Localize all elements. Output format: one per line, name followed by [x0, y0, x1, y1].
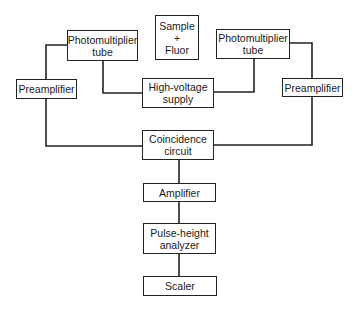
photomultiplier-tube-right-box: Photomultiplier tube [216, 29, 290, 59]
edge-pmt-right-hv [214, 59, 254, 92]
amplifier-box: Amplifier [143, 183, 216, 202]
node-label: Scaler [165, 280, 195, 292]
node-label: supply [163, 93, 193, 105]
node-label: + [174, 32, 180, 44]
sample-fluor-box: Sample + Fluor [155, 15, 199, 60]
node-label: Pulse-height [150, 227, 208, 239]
node-label: Amplifier [159, 187, 200, 199]
node-label: Preamplifier [284, 82, 340, 94]
edge-pmt-right-preamp-right [290, 43, 312, 78]
edge-pmt-left-hv [103, 61, 142, 93]
node-label: Sample [159, 20, 195, 32]
node-label: circuit [164, 145, 191, 157]
node-label: Coincidence [149, 133, 207, 145]
node-label: tube [92, 46, 112, 58]
edge-pmt-left-preamp-left [46, 45, 67, 79]
coincidence-circuit-box: Coincidence circuit [142, 130, 214, 160]
node-label: Preamplifier [18, 83, 74, 95]
edge-preamp-left-coincidence [46, 98, 142, 146]
scaler-box: Scaler [143, 276, 217, 296]
node-label: tube [243, 44, 263, 56]
node-label: analyzer [160, 239, 200, 251]
node-label: High-voltage [149, 81, 208, 93]
high-voltage-supply-box: High-voltage supply [142, 78, 214, 108]
pulse-height-analyzer-box: Pulse-height analyzer [143, 223, 216, 254]
preamplifier-left-box: Preamplifier [16, 79, 77, 99]
node-label: Photomultiplier [68, 34, 137, 46]
edge-preamp-right-coincidence [214, 96, 312, 145]
preamplifier-right-box: Preamplifier [282, 78, 343, 97]
node-label: Photomultiplier [218, 32, 287, 44]
photomultiplier-tube-left-box: Photomultiplier tube [67, 30, 138, 61]
node-label: Fluor [165, 44, 189, 56]
